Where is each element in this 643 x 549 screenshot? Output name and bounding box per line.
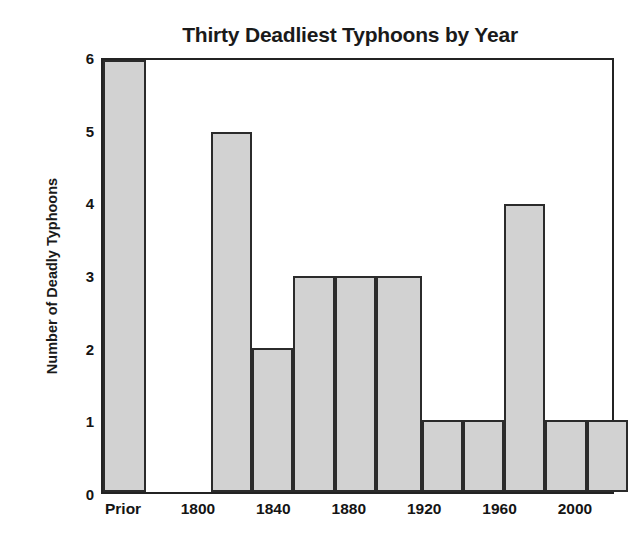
y-axis-tick-labels: 6543210 bbox=[62, 0, 94, 549]
bar bbox=[335, 276, 376, 492]
bar bbox=[422, 420, 463, 492]
bar bbox=[211, 132, 252, 492]
y-tick-label: 6 bbox=[68, 51, 94, 66]
typhoon-histogram-figure: Thirty Deadliest Typhoons by Year Number… bbox=[0, 0, 643, 549]
y-tick-label: 5 bbox=[68, 124, 94, 139]
bar bbox=[587, 420, 628, 492]
y-tick-label: 1 bbox=[68, 414, 94, 429]
x-tick-label: 1880 bbox=[309, 501, 389, 517]
bars-layer bbox=[103, 60, 612, 492]
x-tick-label: 1920 bbox=[384, 501, 464, 517]
bar bbox=[293, 276, 334, 492]
bar bbox=[252, 348, 293, 492]
plot-area bbox=[101, 58, 614, 494]
y-axis-title: Number of Deadly Typhoons bbox=[44, 151, 60, 401]
x-tick-label: 1960 bbox=[460, 501, 540, 517]
x-axis-tick-labels: Prior180018401880192019602000 bbox=[0, 501, 643, 527]
x-tick-label: 1840 bbox=[233, 501, 313, 517]
x-tick-label: 1800 bbox=[158, 501, 238, 517]
y-tick-label: 4 bbox=[68, 196, 94, 211]
bar bbox=[463, 420, 504, 492]
bar bbox=[545, 420, 586, 492]
chart-title: Thirty Deadliest Typhoons by Year bbox=[100, 23, 600, 47]
bar bbox=[504, 204, 545, 492]
bar bbox=[376, 276, 422, 492]
x-tick-label: Prior bbox=[83, 501, 163, 517]
y-tick-label: 3 bbox=[68, 269, 94, 284]
y-tick-label: 2 bbox=[68, 342, 94, 357]
bar bbox=[103, 60, 146, 492]
y-tick-label: 0 bbox=[68, 487, 94, 502]
x-tick-label: 2000 bbox=[535, 501, 615, 517]
